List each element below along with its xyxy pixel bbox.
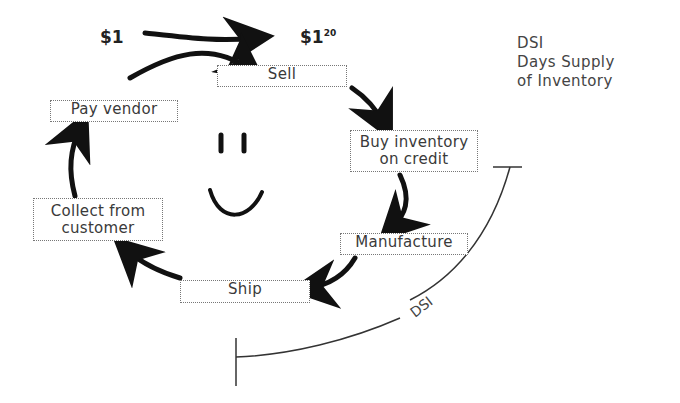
step-buy-inventory: Buy inventory on credit: [350, 130, 478, 172]
step-manufacture: Manufacture: [340, 233, 468, 255]
start-amount: $1: [100, 27, 124, 47]
legend-abbr: DSI: [517, 34, 615, 53]
legend-line1: Days Supply: [517, 53, 615, 72]
end-amount-sup: 20: [324, 28, 337, 38]
step-pay-vendor: Pay vendor: [50, 100, 178, 122]
smiley-face-icon: [210, 135, 262, 215]
dsi-arc-label: DSI: [407, 293, 436, 320]
end-amount: $120: [300, 27, 336, 47]
step-ship: Ship: [180, 280, 310, 303]
step-collect: Collect from customer: [33, 198, 163, 241]
step-sell: Sell: [217, 65, 347, 87]
end-amount-base: $1: [300, 27, 324, 47]
dsi-arc: [236, 167, 522, 386]
dsi-legend: DSI Days Supply of Inventory: [517, 34, 615, 91]
legend-line2: of Inventory: [517, 72, 615, 91]
